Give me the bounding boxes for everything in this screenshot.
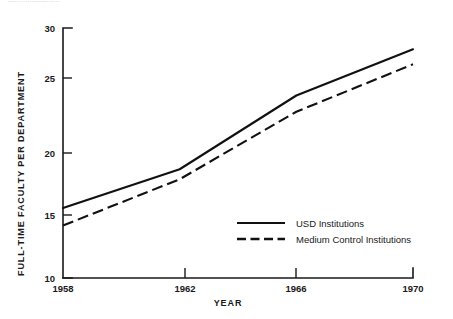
y-axis-title: FULL-TIME FACULTY PER DEPARTMENT [16,71,26,276]
series-line-medium-control-institutions [63,64,413,225]
legend-label-usd-institutions: USD Institutions [296,218,364,229]
y-tick-label-30: 30 [44,23,55,34]
legend: USD Institutions Medium Control Institut… [237,218,411,245]
x-tick-label-1958: 1958 [52,283,73,294]
x-axis-line [63,268,413,278]
legend-label-medium-control-institutions: Medium Control Institutions [296,234,411,245]
x-axis-title: YEAR [214,298,243,308]
chart-figure: ........................ 30 25 20 15 10 … [0,0,453,319]
series-line-usd-institutions [63,49,413,208]
line-chart-svg: 30 25 20 15 10 FULL-TIME FACULTY PER DEP… [0,0,453,319]
y-tick-label-20: 20 [44,148,55,159]
y-tick-label-15: 15 [44,210,55,221]
x-tick-label-1966: 1966 [285,283,306,294]
clipped-top-caption: ........................ [8,0,59,2]
x-tick-label-1962: 1962 [174,283,195,294]
y-tick-label-25: 25 [44,73,55,84]
x-tick-label-1970: 1970 [402,283,423,294]
